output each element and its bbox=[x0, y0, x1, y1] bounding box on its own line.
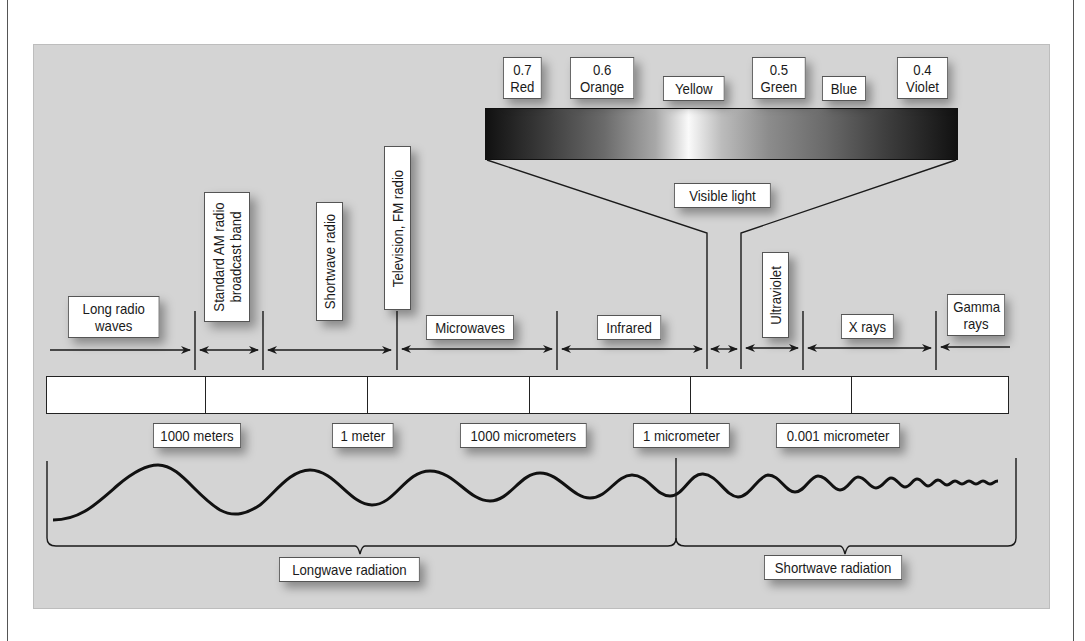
shortwave-radiation-label: Shortwave radiation bbox=[764, 555, 902, 580]
scale-label-1-micrometer: 1 micrometer bbox=[633, 423, 730, 448]
color-label-violet: 0.4 Violet bbox=[897, 57, 948, 99]
color-name: Violet bbox=[903, 78, 942, 95]
segment-divider bbox=[851, 377, 852, 413]
scale-label-1-meter: 1 meter bbox=[332, 423, 394, 448]
label-line: broadcast band bbox=[227, 202, 244, 311]
gamma-rays-label: Gamma rays bbox=[947, 294, 1005, 336]
color-label-yellow: Yellow bbox=[663, 76, 725, 101]
color-label-green: 0.5 Green bbox=[752, 57, 806, 99]
scale-label-1000-meters: 1000 meters bbox=[153, 423, 241, 448]
label-text: Ultraviolet bbox=[767, 266, 784, 325]
am-radio-text: Standard AM radio broadcast band bbox=[210, 202, 244, 311]
longwave-radiation-label: Longwave radiation bbox=[279, 557, 420, 582]
color-label-blue: Blue bbox=[822, 76, 866, 101]
long-radio-waves-label: Long radio waves bbox=[68, 296, 160, 338]
ultraviolet-label: Ultraviolet bbox=[762, 252, 789, 338]
label-line: Standard AM radio bbox=[210, 202, 227, 311]
segment-divider bbox=[690, 377, 691, 413]
xrays-label: X rays bbox=[841, 314, 894, 339]
label-line: Long radio bbox=[74, 300, 153, 317]
color-name: Blue bbox=[828, 80, 860, 97]
am-radio-label: Standard AM radio broadcast band bbox=[204, 192, 250, 322]
wavelength-value: 0.7 bbox=[509, 61, 535, 78]
wavelength-value: 0.5 bbox=[758, 61, 799, 78]
infrared-label: Infrared bbox=[597, 315, 661, 340]
scale-label-1000-micrometers: 1000 micrometers bbox=[460, 423, 587, 448]
color-name: Yellow bbox=[669, 80, 718, 97]
wavelength-value: 0.4 bbox=[903, 61, 942, 78]
tv-fm-radio-label: Television, FM radio bbox=[384, 146, 411, 310]
spectrum-bar bbox=[46, 376, 1009, 414]
segment-divider bbox=[529, 377, 530, 413]
label-line: Gamma bbox=[953, 298, 999, 315]
microwaves-label: Microwaves bbox=[426, 315, 514, 340]
label-text: Television, FM radio bbox=[389, 169, 406, 286]
label-text: Shortwave radio bbox=[321, 214, 338, 309]
color-label-red: 0.7 Red bbox=[503, 57, 542, 99]
visible-light-label: Visible light bbox=[674, 183, 771, 208]
color-name: Red bbox=[509, 78, 535, 95]
label-line: rays bbox=[953, 315, 999, 332]
color-name: Orange bbox=[576, 78, 628, 95]
wavelength-value: 0.6 bbox=[576, 61, 628, 78]
scale-label-0001-micrometer: 0.001 micrometer bbox=[776, 423, 900, 448]
segment-divider bbox=[367, 377, 368, 413]
longwave-brace bbox=[47, 461, 676, 554]
color-name: Green bbox=[758, 78, 799, 95]
wave-curve bbox=[53, 465, 998, 520]
color-label-orange: 0.6 Orange bbox=[570, 57, 634, 99]
label-line: waves bbox=[74, 317, 153, 334]
shortwave-brace bbox=[676, 458, 1016, 554]
shortwave-radio-label: Shortwave radio bbox=[316, 202, 343, 321]
segment-divider bbox=[205, 377, 206, 413]
